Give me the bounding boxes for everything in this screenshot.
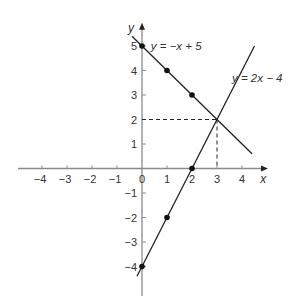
y-tick-label: −3 [124,236,137,248]
x-tick-label: 1 [164,173,170,185]
x-tick-label: 2 [189,173,195,185]
y-tick-label: −1 [124,187,137,199]
x-tick-label: −1 [109,173,122,185]
line2-label: y = 2x − 4 [231,72,283,84]
x-tick-label: 4 [239,173,245,185]
data-points [139,43,195,269]
data-point [189,92,195,98]
y-tick-label: −2 [124,212,137,224]
data-point [189,166,195,172]
y-tick-label: 2 [131,114,137,126]
y-tick-label: −4 [124,261,137,273]
data-point [164,215,170,221]
data-point [139,264,145,270]
x-axis-label: x [259,172,267,186]
y-tick-label: 5 [131,40,137,52]
line1-label: y = −x + 5 [150,40,202,52]
y-tick-label: 1 [131,138,137,150]
coordinate-plane: −4−3−2−101234−4−3−2−112345xyy = −x + 5y … [0,0,303,298]
data-point [139,43,145,49]
data-point [164,68,170,74]
x-tick-label: 0 [139,173,145,185]
y-axis-arrow-icon [139,23,145,30]
y-axis-label: y [127,21,135,35]
x-tick-label: −2 [84,173,97,185]
axes [18,23,268,296]
intersection-guides [142,120,217,169]
x-tick-label: 3 [214,173,220,185]
x-tick-label: −3 [59,173,72,185]
y-tick-label: 4 [131,65,137,77]
graph-figure: −4−3−2−101234−4−3−2−112345xyy = −x + 5y … [0,0,303,298]
x-tick-label: −4 [34,173,47,185]
y-tick-label: 3 [131,89,137,101]
